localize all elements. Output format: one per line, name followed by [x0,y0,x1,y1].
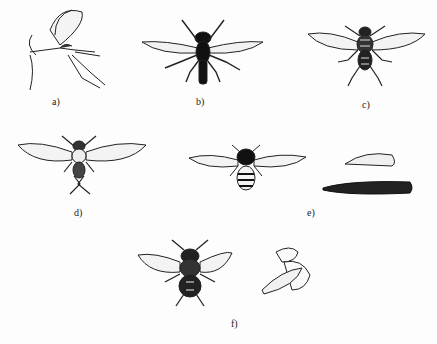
panel-label-f: f) [231,318,238,329]
housefly-side-illustration [0,0,437,344]
insect-figure: a) b) [0,0,437,344]
